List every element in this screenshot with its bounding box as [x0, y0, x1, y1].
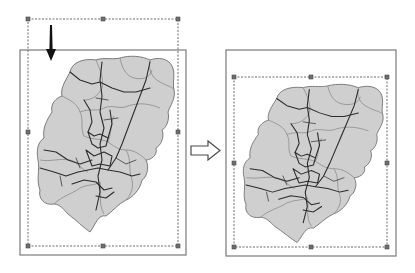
- handle-top-right[interactable]: [176, 17, 180, 21]
- handle-top-left[interactable]: [232, 75, 236, 79]
- transition-arrow-icon: [191, 141, 220, 160]
- panel-after: [226, 50, 396, 256]
- diagram-canvas: [0, 0, 415, 273]
- panel-before: [20, 17, 186, 255]
- handle-bottom-right[interactable]: [385, 245, 389, 249]
- handle-top-mid[interactable]: [309, 75, 313, 79]
- handle-top-mid[interactable]: [101, 17, 105, 21]
- handle-mid-left[interactable]: [232, 161, 236, 165]
- handle-bottom-right[interactable]: [176, 244, 180, 248]
- handle-mid-right[interactable]: [176, 130, 180, 134]
- handle-bottom-left[interactable]: [232, 245, 236, 249]
- handle-bottom-left[interactable]: [26, 244, 30, 248]
- handle-mid-left[interactable]: [26, 130, 30, 134]
- handle-mid-right[interactable]: [385, 161, 389, 165]
- handle-bottom-mid[interactable]: [101, 244, 105, 248]
- handle-top-right[interactable]: [385, 75, 389, 79]
- handle-bottom-mid[interactable]: [309, 245, 313, 249]
- handle-top-left[interactable]: [26, 17, 30, 21]
- map-before: [37, 56, 174, 232]
- down-arrow-icon: [46, 25, 56, 61]
- map-after: [243, 84, 383, 242]
